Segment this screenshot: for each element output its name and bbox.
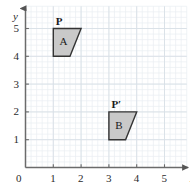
vertex-label-p-prime: P′ [111, 99, 121, 110]
y-tick-label-3: 3 [14, 79, 20, 90]
x-tick-label-1: 1 [50, 173, 56, 184]
y-tick-label-4: 4 [14, 51, 20, 62]
x-tick-label-5: 5 [162, 173, 168, 184]
x-tick-label-2: 2 [78, 173, 84, 184]
axis-lines [26, 8, 189, 167]
shape-label-a: A [60, 36, 68, 47]
x-tick-label-0: 0 [16, 173, 22, 184]
y-tick-label-5: 5 [14, 23, 20, 34]
x-tick-label-3: 3 [106, 173, 112, 184]
axis-tick-marks [25, 29, 165, 169]
vertex-label-p: P [56, 16, 63, 27]
x-tick-label-4: 4 [134, 173, 140, 184]
y-axis-label: y [13, 11, 18, 22]
plot-canvas [0, 0, 190, 190]
shape-label-b: B [115, 120, 122, 131]
grid-minor-lines [26, 6, 187, 167]
polygon-b [109, 112, 137, 140]
y-tick-label-2: 2 [14, 106, 20, 117]
grid-major-lines [26, 6, 187, 167]
y-tick-label-1: 1 [14, 134, 20, 145]
coordinate-plane-figure: 01234512345xyABPP′ [0, 0, 190, 190]
